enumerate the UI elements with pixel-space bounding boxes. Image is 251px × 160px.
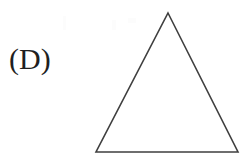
triangle-outline [96, 13, 238, 152]
figure-canvas: (D) [0, 0, 251, 160]
triangle-shape-svg [0, 0, 251, 160]
